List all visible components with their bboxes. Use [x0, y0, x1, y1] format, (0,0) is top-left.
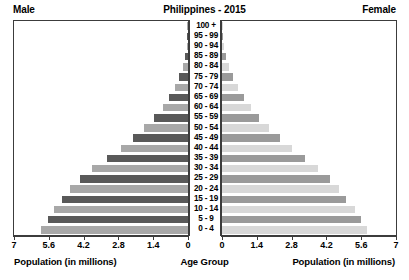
axis-tick-label: 1.4 — [147, 240, 160, 251]
male-bar — [107, 155, 188, 162]
age-group-label: 45 - 49 — [190, 133, 222, 142]
age-group-label: 65 - 69 — [190, 92, 222, 101]
axis-tick-label: 5.6 — [43, 240, 56, 251]
female-bar — [222, 104, 251, 111]
axis-tick-label: 7 — [393, 240, 398, 251]
female-bar — [222, 226, 367, 233]
age-group-label: 70 - 74 — [190, 82, 222, 91]
age-group-axis: 100 +95 - 9990 - 9485 - 8980 - 8475 - 79… — [189, 20, 221, 236]
female-plot-panel — [221, 20, 397, 236]
age-group-label: 10 - 14 — [190, 204, 222, 213]
female-bar — [222, 124, 269, 131]
female-bar — [222, 114, 259, 121]
female-bar-group — [222, 21, 396, 235]
age-group-label: 5 - 9 — [190, 214, 222, 223]
age-group-label: 25 - 29 — [190, 173, 222, 182]
axis-tick-label: 0 — [185, 240, 190, 251]
female-bar — [222, 43, 224, 50]
age-group-label: 90 - 94 — [190, 41, 222, 50]
male-bar — [133, 134, 188, 141]
age-group-label: 60 - 64 — [190, 102, 222, 111]
female-bar — [222, 94, 244, 101]
chart-footer: Population (in millions) Age Group Popul… — [0, 256, 409, 272]
female-bar — [222, 196, 346, 203]
population-pyramid-chart: Male Philippines - 2015 Female 100 +95 -… — [0, 0, 409, 280]
male-bar — [187, 33, 188, 40]
age-group-label: 85 - 89 — [190, 51, 222, 60]
male-bar — [80, 175, 188, 182]
male-bar — [187, 43, 188, 50]
female-bar — [222, 185, 339, 192]
female-value-axis: 01.42.84.25.67 — [221, 236, 397, 254]
female-bar — [222, 175, 330, 182]
male-plot-panel — [13, 20, 189, 236]
male-bar — [92, 165, 188, 172]
axis-tick-label: 2.8 — [112, 240, 125, 251]
axis-tick-label: 7 — [11, 240, 16, 251]
female-side-label: Female — [362, 3, 396, 16]
age-group-label: 55 - 59 — [190, 112, 222, 121]
female-bar — [222, 53, 226, 60]
female-bar — [222, 216, 361, 223]
male-bar — [154, 114, 188, 121]
axis-tick-label: 0 — [219, 240, 224, 251]
age-group-label: 0 - 4 — [190, 224, 222, 233]
age-group-label: 15 - 19 — [190, 194, 222, 203]
male-bar — [175, 84, 188, 91]
female-bar — [222, 22, 223, 29]
male-bar — [48, 216, 188, 223]
female-bar — [222, 33, 223, 40]
male-bar — [121, 145, 188, 152]
male-bar — [144, 124, 188, 131]
male-bar — [187, 22, 188, 29]
chart-header: Male Philippines - 2015 Female — [0, 3, 409, 18]
axis-tick-label: 4.2 — [77, 240, 90, 251]
male-bar — [54, 206, 188, 213]
female-bar — [222, 165, 318, 172]
female-bar — [222, 155, 305, 162]
female-bar — [222, 84, 238, 91]
male-bar — [163, 104, 188, 111]
age-group-label: 30 - 34 — [190, 163, 222, 172]
female-bar — [222, 206, 355, 213]
female-bar — [222, 134, 280, 141]
male-bar — [183, 63, 188, 70]
female-bar — [222, 63, 229, 70]
axis-tick-label: 4.2 — [320, 240, 333, 251]
female-bar — [222, 73, 233, 80]
male-axis-line — [13, 236, 189, 237]
age-group-label: 95 - 99 — [190, 31, 222, 40]
male-bar — [62, 196, 188, 203]
male-value-axis: 75.64.22.81.40 — [13, 236, 189, 254]
age-group-label: 35 - 39 — [190, 153, 222, 162]
chart-title: Philippines - 2015 — [0, 3, 409, 16]
female-axis-line — [221, 236, 397, 237]
age-group-label: 40 - 44 — [190, 143, 222, 152]
male-bar — [179, 73, 188, 80]
male-bar — [169, 94, 188, 101]
age-group-label: 50 - 54 — [190, 123, 222, 132]
axis-tick-label: 5.6 — [355, 240, 368, 251]
axis-tick-label: 2.8 — [285, 240, 298, 251]
age-group-label: 100 + — [190, 21, 222, 30]
age-group-label: 80 - 84 — [190, 61, 222, 70]
female-bar — [222, 145, 292, 152]
female-axis-caption: Population (in millions) — [292, 256, 395, 268]
age-group-label: 20 - 24 — [190, 184, 222, 193]
age-group-label: 75 - 79 — [190, 72, 222, 81]
male-bar-group — [14, 21, 188, 235]
male-bar — [185, 53, 188, 60]
male-bar — [41, 226, 188, 233]
male-bar — [70, 185, 188, 192]
axis-tick-label: 1.4 — [251, 240, 264, 251]
